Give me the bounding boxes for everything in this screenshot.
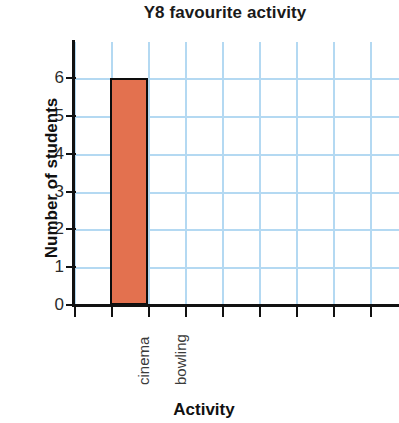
bar-chart: Y8 favourite activity 0123456 cinemabowl…	[0, 0, 399, 423]
gridline-vertical	[296, 42, 298, 305]
bar-cinema	[110, 78, 148, 305]
x-axis-line	[72, 304, 399, 307]
plot-area	[74, 42, 399, 305]
y-tick-mark	[66, 77, 76, 79]
y-axis-title: Number of students	[42, 48, 62, 308]
gridline-vertical	[259, 42, 261, 305]
y-tick-mark	[66, 191, 76, 193]
y-tick-mark	[66, 228, 76, 230]
x-tick-mark	[333, 306, 335, 317]
x-tick-label-bowling: bowling	[172, 334, 189, 385]
gridline-vertical	[222, 42, 224, 305]
y-tick-mark	[66, 266, 76, 268]
x-tick-mark	[370, 306, 372, 317]
chart-title: Y8 favourite activity	[60, 3, 390, 23]
x-tick-label-cinema: cinema	[135, 337, 152, 385]
gridline-vertical	[148, 42, 150, 305]
x-tick-mark	[185, 306, 187, 317]
y-tick-mark	[66, 153, 76, 155]
gridline-vertical	[185, 42, 187, 305]
x-tick-mark	[111, 306, 113, 317]
y-tick-mark	[66, 115, 76, 117]
gridline-vertical	[370, 42, 372, 305]
gridline-vertical	[333, 42, 335, 305]
x-tick-mark	[296, 306, 298, 317]
x-tick-mark	[148, 306, 150, 317]
x-axis-title: Activity	[74, 400, 334, 420]
x-tick-mark	[259, 306, 261, 317]
x-tick-mark	[74, 306, 76, 317]
x-tick-mark	[222, 306, 224, 317]
